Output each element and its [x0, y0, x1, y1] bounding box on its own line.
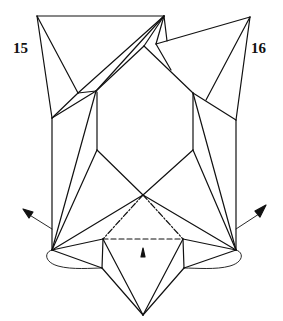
origami-diagram: [0, 0, 283, 321]
rotation-arrow-right: [184, 205, 266, 269]
push-arrow: [141, 248, 145, 257]
top-right-flap: [144, 16, 250, 120]
top-left-flap: [37, 16, 164, 118]
mountain-fold-line-left: [103, 195, 143, 239]
mountain-fold-line-right: [143, 195, 183, 239]
right-side-panel: [143, 93, 236, 268]
rotation-arrow-left: [23, 209, 102, 269]
center-hexagon: [96, 46, 193, 195]
